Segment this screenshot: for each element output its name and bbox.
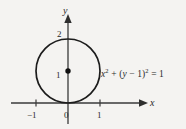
circle-equation-annotation: x2 + (y − 1)2 = 1 — [101, 70, 164, 80]
eq-exp-paren: 2 — [145, 67, 148, 74]
math-figure-circle: −1 0 1 2 1 x y x2 + (y − 1)2 = 1 — [0, 0, 186, 129]
eq-equals: = — [151, 69, 156, 79]
center-point-dot — [65, 68, 70, 73]
eq-exp-x: 2 — [105, 67, 108, 74]
x-axis-label: x — [150, 98, 154, 108]
eq-var-y: y — [122, 69, 126, 79]
center-point-label-one: 1 — [56, 71, 61, 80]
x-axis-arrowhead — [139, 99, 148, 106]
y-axis-label: y — [63, 6, 67, 16]
eq-minus: − — [129, 69, 134, 79]
y-tick-label-two: 2 — [57, 30, 62, 39]
x-tick-label-neg1: −1 — [27, 111, 37, 120]
x-tick-label-one: 1 — [97, 111, 102, 120]
eq-plus: + — [111, 69, 116, 79]
x-tick-label-zero: 0 — [64, 111, 69, 120]
eq-rhs: 1 — [159, 69, 164, 79]
